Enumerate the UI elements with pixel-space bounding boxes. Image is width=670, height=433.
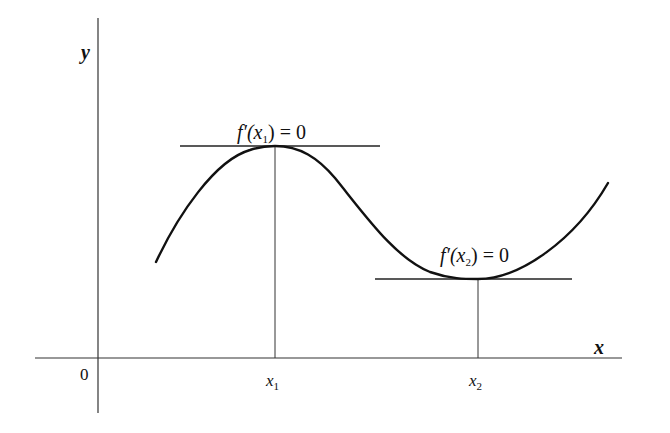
annotation-min-prefix: f′(: [440, 244, 457, 266]
tick-x1-var: x: [266, 371, 274, 390]
annotation-min: f′(x2) = 0: [440, 245, 509, 268]
y-axis-label: y: [81, 42, 90, 62]
tick-x2-var: x: [469, 371, 477, 390]
annotation-min-suffix: ) = 0: [471, 244, 509, 266]
origin-label: 0: [80, 366, 89, 383]
tick-label-x1: x1: [266, 372, 279, 392]
function-curve: [156, 146, 608, 279]
annotation-max-prefix: f′(: [237, 121, 254, 143]
x-axis-label: x: [594, 337, 604, 357]
tick-x1-sub: 1: [274, 380, 280, 392]
tick-x2-sub: 2: [477, 380, 483, 392]
graph-canvas: [0, 0, 670, 433]
tick-label-x2: x2: [469, 372, 482, 392]
annotation-max-suffix: ) = 0: [268, 121, 306, 143]
annotation-max: f′(x1) = 0: [237, 122, 306, 145]
